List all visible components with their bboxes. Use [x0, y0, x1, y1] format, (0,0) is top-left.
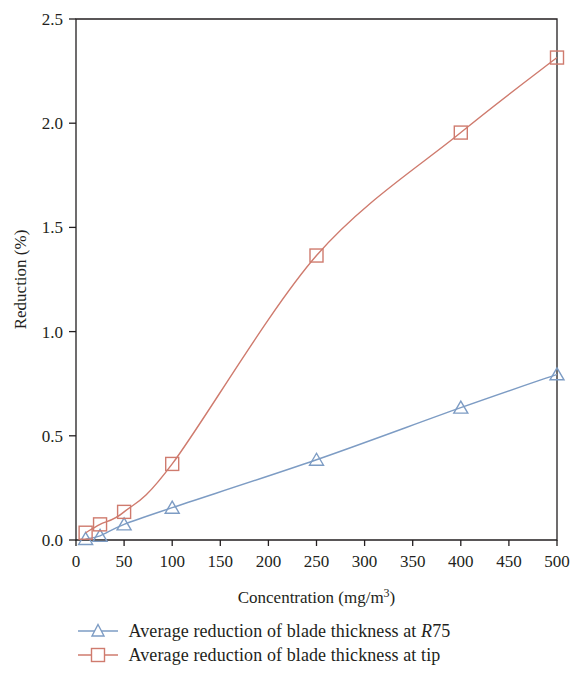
legend-label-tip-prefix: Average reduction of blade thickness at …	[129, 645, 441, 665]
legend-key-square-icon	[76, 644, 120, 666]
x-tick-label: 200	[256, 552, 282, 571]
x-axis-title: Concentration (mg/m3)	[238, 586, 396, 607]
x-tick-label: 100	[159, 552, 185, 571]
legend-label-r75-suffix: 75	[432, 621, 450, 641]
legend-item-tip: Average reduction of blade thickness at …	[76, 644, 506, 666]
x-tick-label: 300	[352, 552, 378, 571]
x-tick-label: 500	[544, 552, 570, 571]
series-line-r75	[86, 374, 557, 539]
legend-item-r75: Average reduction of blade thickness at …	[76, 620, 506, 642]
legend-key-triangle-icon	[76, 620, 120, 642]
x-tick-label: 0	[72, 552, 81, 571]
y-tick-label: 2.5	[42, 10, 63, 29]
line-chart: 0501001502002503003504004505000.00.51.01…	[0, 0, 581, 620]
legend-label-r75: Average reduction of blade thickness at …	[129, 621, 451, 642]
figure-container: 0501001502002503003504004505000.00.51.01…	[0, 0, 581, 685]
legend-label-tip: Average reduction of blade thickness at …	[129, 645, 441, 666]
y-tick-label: 0.0	[42, 531, 63, 550]
chart-legend: Average reduction of blade thickness at …	[0, 620, 581, 685]
x-tick-label: 400	[448, 552, 474, 571]
x-tick-label: 250	[304, 552, 330, 571]
plot-frame	[76, 19, 557, 540]
y-tick-label: 0.5	[42, 427, 63, 446]
x-tick-label: 350	[400, 552, 426, 571]
x-tick-label: 150	[208, 552, 234, 571]
y-tick-label: 1.0	[42, 323, 63, 342]
y-tick-label: 2.0	[42, 114, 63, 133]
y-tick-label: 1.5	[42, 218, 63, 237]
x-tick-label: 450	[496, 552, 522, 571]
legend-label-r75-prefix: Average reduction of blade thickness at	[129, 621, 422, 641]
x-tick-label: 50	[116, 552, 133, 571]
y-axis-title: Reduction (%)	[11, 230, 30, 330]
legend-label-r75-italic: R	[421, 621, 432, 641]
